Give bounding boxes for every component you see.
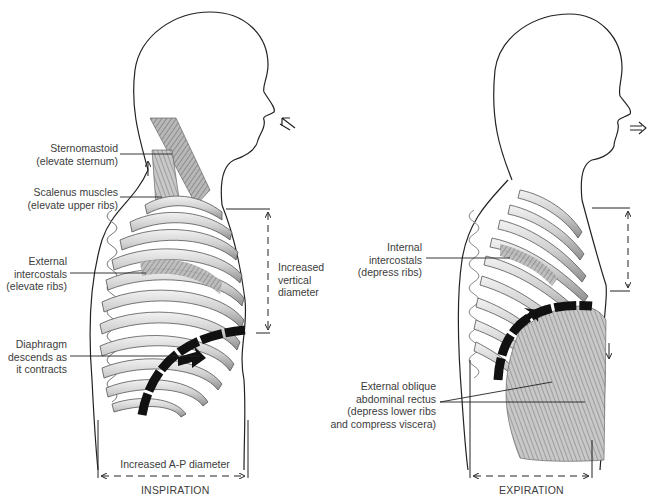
label-ap-diameter: Increased A-P diameter: [110, 458, 240, 471]
label-vertical-diameter: Increased vertical diameter: [278, 261, 324, 299]
vertical-dimension-right: [592, 208, 630, 291]
caption-expiration: EXPIRATION: [499, 484, 564, 496]
label-scalenus-muscles: Scalenus muscles (elevate upper ribs): [0, 186, 118, 211]
label-external-intercostals: External intercostals (elevate ribs): [0, 255, 67, 293]
inspiration-figure: [70, 12, 295, 478]
ribcage-left: [100, 196, 244, 417]
head-outline-right: [494, 14, 631, 200]
label-sternomastoid: Sternomastoid (elevate sternum): [20, 142, 118, 167]
label-internal-intercostals: Internal intercostals (depress ribs): [340, 241, 422, 279]
caption-inspiration: INSPIRATION: [141, 484, 210, 496]
label-diaphragm: Diaphragm descends as it contracts: [0, 338, 67, 376]
inhale-arrow-icon: [280, 118, 295, 130]
label-abdominal-muscles: External oblique abdominal rectus (depre…: [316, 380, 436, 430]
exhale-arrow-icon: [630, 122, 646, 134]
expiration-figure: [426, 14, 646, 478]
